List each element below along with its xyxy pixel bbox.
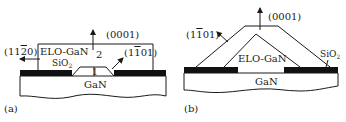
direction-up-label-b: (0001) <box>268 11 301 22</box>
region-1-label: 1 <box>92 67 98 77</box>
direction-up-label-a: (0001) <box>106 29 139 40</box>
caption-a: (a) <box>4 103 18 114</box>
sio2-mask-left-a <box>20 70 72 76</box>
caption-b: (b) <box>184 103 198 114</box>
elo-gan-diagram: GaN 1 ELO-GaN 2 SiO2 (0001) (1120) (1101… <box>0 0 346 122</box>
sio2-mask-right-a <box>114 70 166 76</box>
mask-label-a: SiO2 <box>52 58 72 69</box>
substrate-label-b: GaN <box>255 76 278 87</box>
direction-facet-label-b: (1101) <box>186 29 219 40</box>
layer-label-a: ELO-GaN <box>40 46 89 57</box>
sio2-mask-right-b <box>284 67 338 73</box>
direction-left-label-a: (1120) <box>4 46 37 57</box>
region-2-label: 2 <box>96 49 102 60</box>
arrow-facet-icon-a <box>112 58 123 69</box>
layer-label-b: ELO-GaN <box>238 53 287 64</box>
direction-facet-label-a: (1101) <box>124 47 157 58</box>
substrate-label-a: GaN <box>84 79 107 90</box>
mask-label-b: SiO2 <box>320 49 340 60</box>
panel-a: GaN 1 ELO-GaN 2 SiO2 (0001) (1120) (1101… <box>4 29 166 114</box>
sio2-mask-left-b <box>184 67 238 73</box>
panel-b: GaN ELO-GaN SiO2 (0001) (1101) (b) <box>184 8 340 114</box>
